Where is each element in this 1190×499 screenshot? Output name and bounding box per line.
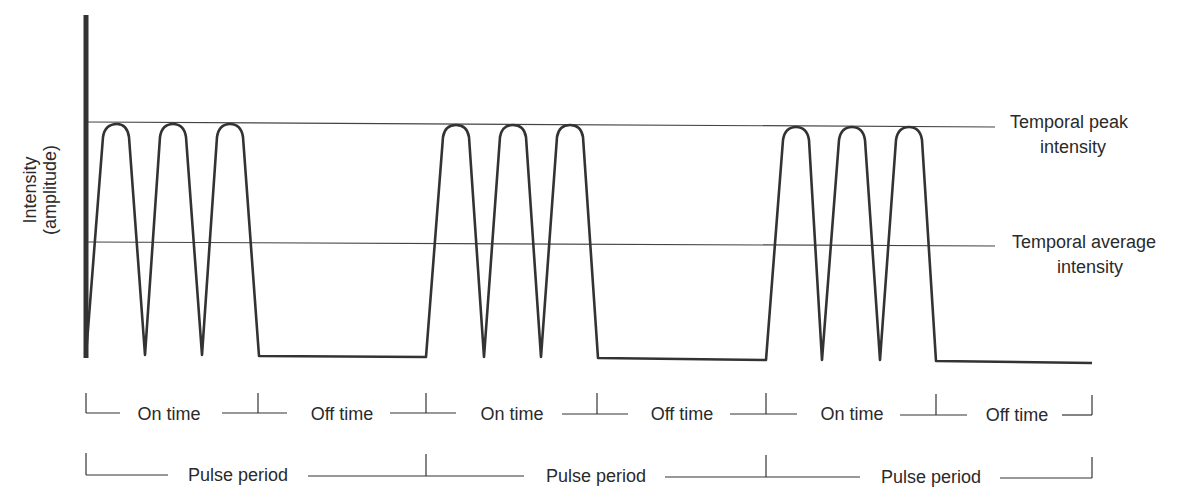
off-time-label-1: Off time: [311, 404, 374, 424]
temporal-peak-label: Temporal peak: [1010, 112, 1129, 132]
y-axis-label-line1: Intensity: [20, 156, 40, 223]
pulse-period-label-1: Pulse period: [188, 465, 288, 485]
y-axis-label-line2: (amplitude): [40, 145, 60, 235]
off-time-label-3: Off time: [986, 405, 1049, 425]
pulse-waveform: [86, 124, 1092, 363]
timing-row: On time Off time On time Off time On tim…: [86, 393, 1092, 425]
pulse-period-label-2: Pulse period: [546, 466, 646, 486]
temporal-average-line: [88, 242, 995, 246]
on-time-label-1: On time: [137, 404, 200, 424]
pulsed-wave-diagram: Intensity (amplitude) Temporal peak inte…: [0, 0, 1190, 499]
on-time-label-3: On time: [820, 404, 883, 424]
on-time-label-2: On time: [480, 404, 543, 424]
pulse-period-label-3: Pulse period: [881, 467, 981, 487]
off-time-label-2: Off time: [651, 404, 714, 424]
temporal-peak-label-2: intensity: [1040, 137, 1106, 157]
y-axis-label: Intensity (amplitude): [20, 145, 60, 235]
temporal-average-label: Temporal average: [1012, 232, 1156, 252]
period-row: Pulse period Pulse period Pulse period: [86, 453, 1092, 487]
temporal-average-label-2: intensity: [1057, 257, 1123, 277]
